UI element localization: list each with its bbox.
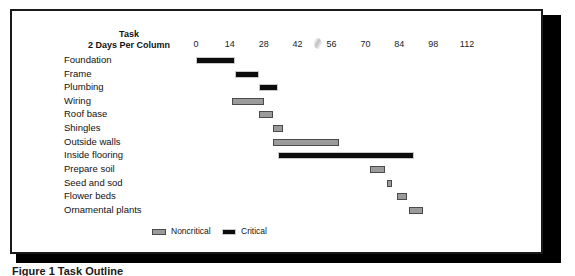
legend-label: Noncritical <box>171 226 211 236</box>
gantt-bar-noncritical[interactable] <box>232 98 263 105</box>
x-tick-label-56: 56 <box>327 39 337 49</box>
gantt-bar-noncritical[interactable] <box>259 111 274 118</box>
gantt-bar-noncritical[interactable] <box>273 125 283 132</box>
task-label: Frame <box>64 69 91 79</box>
task-label: Foundation <box>64 55 112 65</box>
legend-label: Critical <box>241 226 267 236</box>
gantt-bar-noncritical[interactable] <box>397 193 407 200</box>
task-label: Plumbing <box>64 82 104 92</box>
gantt-bar-critical[interactable] <box>196 57 235 64</box>
task-label: Roof base <box>64 109 107 119</box>
x-tick-label-84: 84 <box>394 39 404 49</box>
x-tick-label-0: 0 <box>193 39 198 49</box>
x-tick-label-28: 28 <box>259 39 269 49</box>
legend-swatch-noncritical <box>152 229 166 235</box>
task-label: Shingles <box>64 123 100 133</box>
gantt-bar-noncritical[interactable] <box>409 207 424 214</box>
task-label: Prepare soil <box>64 164 115 174</box>
x-tick-label-14: 14 <box>225 39 235 49</box>
task-label: Flower beds <box>64 191 116 201</box>
x-tick-label-42: 42 <box>293 39 303 49</box>
legend-swatch-critical <box>222 229 236 235</box>
task-label: Wiring <box>64 96 91 106</box>
gantt-bar-noncritical[interactable] <box>273 139 338 146</box>
gantt-bar-noncritical[interactable] <box>387 180 392 187</box>
x-tick-label-98: 98 <box>428 39 438 49</box>
chart-header-task: Task 2 Days Per Column <box>64 29 194 51</box>
task-label: Seed and sod <box>64 178 123 188</box>
gantt-bar-noncritical[interactable] <box>370 166 385 173</box>
task-label: Outside walls <box>64 137 121 147</box>
x-tick-label-70: 70 <box>360 39 370 49</box>
gantt-chart-plot: Task 2 Days Per Column 01428425670849811… <box>12 11 541 252</box>
header-task-line1: Task <box>119 29 139 39</box>
task-label: Ornamental plants <box>64 205 142 215</box>
figure-frame: Task 2 Days Per Column 01428425670849811… <box>10 9 543 254</box>
gantt-bar-critical[interactable] <box>235 71 259 78</box>
gantt-bar-critical[interactable] <box>259 84 278 91</box>
figure-stage: Task 2 Days Per Column 01428425670849811… <box>0 0 575 276</box>
x-tick-label-112: 112 <box>460 39 474 49</box>
header-task-line2: 2 Days Per Column <box>64 40 194 51</box>
figure-caption: Figure 1 Task Outline <box>12 265 123 276</box>
chart-legend: NoncriticalCritical <box>12 226 541 240</box>
task-label: Inside flooring <box>64 150 123 160</box>
gantt-bar-critical[interactable] <box>278 152 414 159</box>
